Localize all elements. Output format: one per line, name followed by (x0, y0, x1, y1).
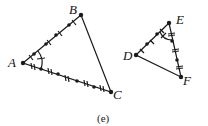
label-b: B (69, 2, 77, 17)
label-d: D (122, 48, 133, 63)
label-f: F (182, 73, 192, 88)
triangles-diagram: A B C D E F (e) (0, 0, 208, 126)
vertex-dots (21, 13, 183, 94)
figure: A B C D E F (e) (0, 0, 208, 126)
ticks-ef (168, 33, 183, 69)
figure-caption: (e) (97, 112, 110, 125)
angle-arc-a (38, 51, 42, 69)
label-e: E (175, 12, 184, 27)
triangle-abc (23, 15, 111, 92)
label-c: C (113, 87, 122, 102)
label-a: A (7, 55, 16, 70)
